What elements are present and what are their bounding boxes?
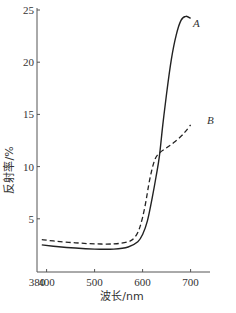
- x-axis-label: 波长/nm: [100, 290, 143, 303]
- series-a-label: A: [192, 17, 200, 29]
- y-tick-label: 5: [29, 213, 35, 225]
- x-tick-label: 500: [86, 276, 103, 288]
- y-tick-label: 15: [23, 108, 35, 120]
- y-tick-label: 10: [23, 161, 35, 173]
- reflectance-chart: 510152025 380400500600700 反射率/% 波长/nm A …: [0, 0, 236, 313]
- x-tick-label: 600: [134, 276, 151, 288]
- axes: [37, 8, 210, 272]
- x-tick-label: 700: [182, 276, 199, 288]
- y-tick-label: 25: [23, 4, 35, 16]
- x-tick-label: 400: [38, 276, 55, 288]
- y-tick-label: 20: [23, 56, 35, 68]
- series-b-line: [42, 125, 191, 244]
- series-b-label: B: [207, 114, 214, 126]
- series-a-line: [42, 16, 191, 249]
- y-axis-label: 反射率/%: [2, 146, 16, 193]
